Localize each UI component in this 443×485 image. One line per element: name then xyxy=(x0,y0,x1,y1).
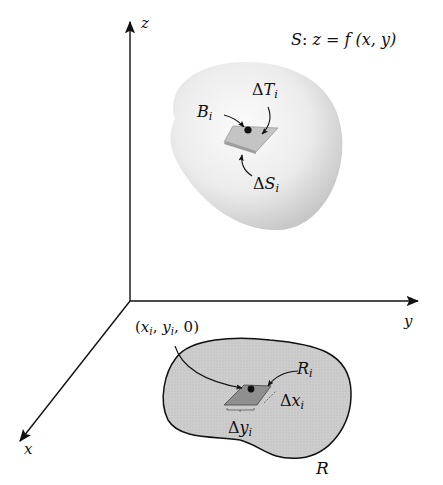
subscript-i: i xyxy=(274,88,278,101)
label-T: T xyxy=(264,80,275,99)
label-delta-x: Δxi xyxy=(280,393,304,412)
delta-symbol: Δ xyxy=(252,80,264,99)
label-R: R xyxy=(316,460,329,477)
point-xi-yi xyxy=(248,386,255,393)
point-B xyxy=(244,126,251,133)
surface-formula: z = f (x, y) xyxy=(312,30,396,49)
subscript-i: i xyxy=(276,182,280,195)
y-axis-label: y xyxy=(404,314,412,329)
surface-integral-diagram xyxy=(0,0,443,485)
label-y: y xyxy=(240,418,249,437)
label-R-i: Ri xyxy=(297,361,313,380)
surface-equation: S: z = f (x, y) xyxy=(291,32,396,48)
label-delta-y: Δyi xyxy=(228,420,252,439)
label-B-name: B xyxy=(197,102,209,121)
label-delta-S: ΔSi xyxy=(253,176,279,195)
label-B: Bi xyxy=(197,104,212,123)
label-R-i-name: R xyxy=(297,359,309,378)
delta-symbol: Δ xyxy=(228,418,240,437)
subscript-i: i xyxy=(209,110,213,123)
surface-colon: : xyxy=(302,30,307,49)
coord-z-tail: , 0) xyxy=(174,318,199,336)
x-axis-label: x xyxy=(24,442,32,457)
comma: , xyxy=(153,318,163,336)
coord-y: y xyxy=(162,318,170,336)
label-S: S xyxy=(265,174,276,193)
delta-symbol: Δ xyxy=(253,174,265,193)
x-axis xyxy=(20,301,130,441)
subscript-i: i xyxy=(249,426,253,439)
z-axis-label: z xyxy=(141,16,149,31)
label-delta-T: ΔTi xyxy=(252,82,278,101)
label-point: (xi, yi, 0) xyxy=(135,320,199,337)
subscript-i: i xyxy=(301,399,305,412)
delta-symbol: Δ xyxy=(280,391,292,410)
surface-name: S xyxy=(291,30,302,49)
label-x: x xyxy=(292,391,301,410)
subscript-i: i xyxy=(309,367,313,380)
